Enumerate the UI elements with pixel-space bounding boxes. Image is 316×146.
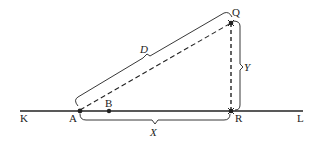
label-A: A	[69, 112, 77, 124]
geometry-diagram: K A B R L Q D Y X	[0, 0, 316, 146]
label-R: R	[235, 112, 243, 124]
brace-X	[80, 114, 230, 124]
label-L: L	[297, 112, 304, 124]
label-Y: Y	[244, 61, 252, 73]
label-B: B	[105, 97, 112, 109]
label-D: D	[139, 43, 148, 55]
brace-Y	[233, 21, 243, 110]
dashed-line-AQ	[80, 23, 231, 110]
label-K: K	[20, 112, 28, 124]
point-Q-marker	[228, 20, 234, 26]
point-R-marker	[228, 108, 234, 114]
point-B-marker	[107, 109, 111, 113]
label-Q: Q	[232, 6, 240, 18]
brace-D	[76, 13, 233, 107]
point-A-marker	[78, 109, 83, 114]
label-X: X	[149, 126, 158, 138]
